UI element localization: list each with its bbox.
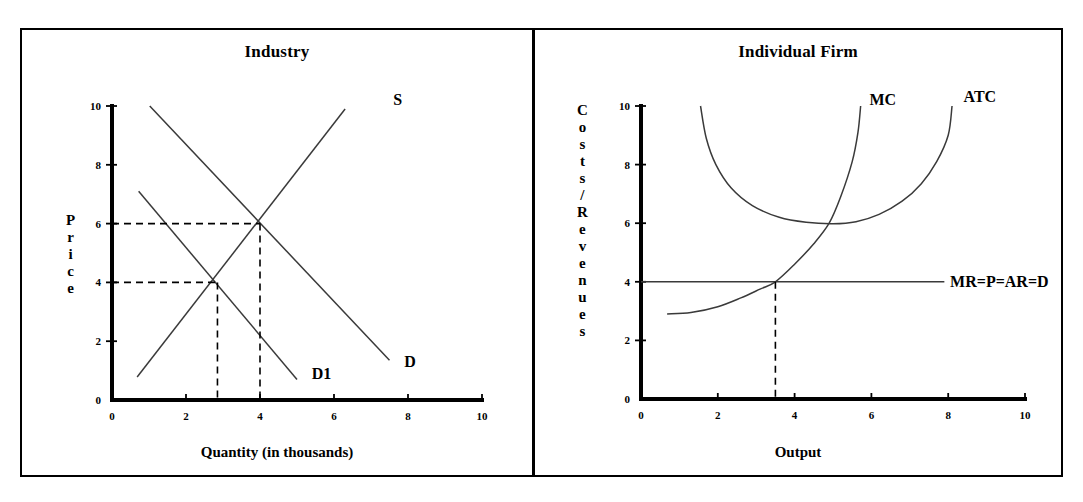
y-tick-label: 6 <box>625 217 631 229</box>
curve-d <box>150 106 390 360</box>
curve-s <box>137 109 345 377</box>
y-tick-label: 8 <box>96 159 102 171</box>
x-tick-label: 10 <box>1020 409 1032 421</box>
x-tick-label: 6 <box>869 409 875 421</box>
curve-label-atc: ATC <box>964 88 997 105</box>
y-tick-label: 2 <box>625 334 631 346</box>
y-tick-label: 6 <box>96 218 102 230</box>
y-tick-label: 10 <box>619 100 631 112</box>
x-tick-label: 2 <box>183 410 189 422</box>
y-tick-label: 0 <box>96 394 102 406</box>
x-axis-label-quantity: Quantity (in thousands) <box>22 444 532 461</box>
economics-figure: Industry P r i c e 02468100246810SDD1 Qu… <box>0 0 1083 502</box>
x-tick-label: 8 <box>945 409 951 421</box>
curve-label-d1: D1 <box>312 365 332 382</box>
x-axis-label-output: Output <box>535 444 1061 461</box>
curve-label-mc: MC <box>869 91 896 108</box>
panel-individual-firm: Individual Firm C o s t s / R e v e n u … <box>532 30 1061 475</box>
firm-plot: 02468100246810MCATCMR=P=AR=D <box>535 30 1064 479</box>
y-tick-label: 8 <box>625 159 631 171</box>
curve-atc <box>701 106 953 224</box>
x-tick-label: 4 <box>257 410 263 422</box>
y-tick-label: 2 <box>96 335 102 347</box>
x-tick-label: 0 <box>638 409 644 421</box>
x-tick-label: 0 <box>109 410 115 422</box>
curve-label-d: D <box>404 353 416 370</box>
x-tick-label: 6 <box>331 410 337 422</box>
x-tick-label: 10 <box>477 410 489 422</box>
curve-mc <box>667 106 861 314</box>
y-tick-label: 4 <box>625 276 631 288</box>
x-tick-label: 8 <box>405 410 411 422</box>
y-tick-label: 10 <box>90 100 102 112</box>
y-tick-label: 0 <box>625 393 631 405</box>
x-tick-label: 4 <box>792 409 798 421</box>
x-tick-label: 2 <box>715 409 721 421</box>
panel-industry: Industry P r i c e 02468100246810SDD1 Qu… <box>22 30 532 475</box>
figure-frame: Industry P r i c e 02468100246810SDD1 Qu… <box>20 28 1063 477</box>
curve-label-mr-p-ar-d: MR=P=AR=D <box>950 273 1048 290</box>
curve-label-s: S <box>393 91 402 108</box>
y-tick-label: 4 <box>96 276 102 288</box>
industry-plot: 02468100246810SDD1 <box>22 30 532 479</box>
